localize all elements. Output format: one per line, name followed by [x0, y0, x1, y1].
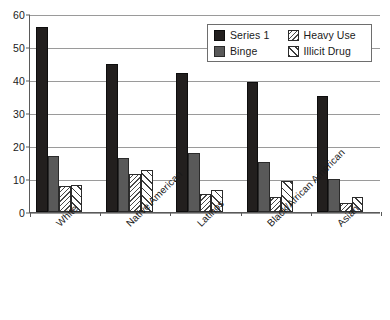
legend-label: Illicit Drug — [304, 45, 351, 57]
legend-item-binge: Binge — [214, 45, 279, 57]
x-axis-tick-mark — [381, 212, 382, 216]
bar — [176, 73, 188, 212]
y-axis-tick-label: 60 — [13, 9, 25, 21]
x-axis-tick-mark — [100, 212, 101, 216]
bar — [270, 197, 282, 212]
bar — [352, 197, 364, 212]
x-axis-tick-mark — [170, 212, 171, 216]
series1-swatch-icon — [214, 30, 225, 41]
legend-label: Binge — [230, 45, 257, 57]
y-axis-tick-label: 30 — [13, 108, 25, 120]
bar — [258, 162, 270, 212]
bar — [328, 179, 340, 212]
legend-item-illicit-drug: Illicit Drug — [288, 45, 365, 57]
bar — [36, 27, 48, 212]
bar — [247, 82, 259, 212]
bar-group — [100, 15, 170, 212]
bar — [59, 186, 71, 212]
heavy-use-swatch-icon — [288, 30, 299, 41]
bar — [71, 185, 83, 212]
bar — [211, 190, 223, 212]
bar — [188, 153, 200, 212]
gridline — [30, 213, 380, 214]
legend-label: Series 1 — [230, 29, 269, 41]
bar — [317, 96, 329, 212]
bar — [48, 156, 60, 212]
binge-swatch-icon — [214, 46, 225, 57]
bar — [281, 181, 293, 212]
y-axis-tick-label: 40 — [13, 75, 25, 87]
bar-group — [30, 15, 100, 212]
y-axis-tick-label: 10 — [13, 174, 25, 186]
legend-label: Heavy Use — [304, 29, 356, 41]
y-axis-tick-label: 0 — [19, 207, 25, 219]
bar-chart: 0102030405060 WhiteNative AmericanLatino… — [0, 0, 390, 320]
y-axis-tick-label: 20 — [13, 141, 25, 153]
bar — [200, 194, 212, 212]
x-axis-tick-mark — [311, 212, 312, 216]
y-axis-tick-label: 50 — [13, 42, 25, 54]
bar — [106, 64, 118, 212]
x-axis-tick-mark — [241, 212, 242, 216]
x-axis-tick-mark — [30, 213, 31, 217]
chart-legend: Series 1 Heavy Use Binge Illicit Drug — [207, 24, 372, 62]
legend-item-heavy-use: Heavy Use — [288, 29, 365, 41]
bar — [141, 170, 153, 212]
bar — [340, 203, 352, 212]
bar — [118, 158, 130, 212]
illicit-drug-swatch-icon — [288, 46, 299, 57]
legend-item-series-1: Series 1 — [214, 29, 279, 41]
bar — [129, 174, 141, 212]
